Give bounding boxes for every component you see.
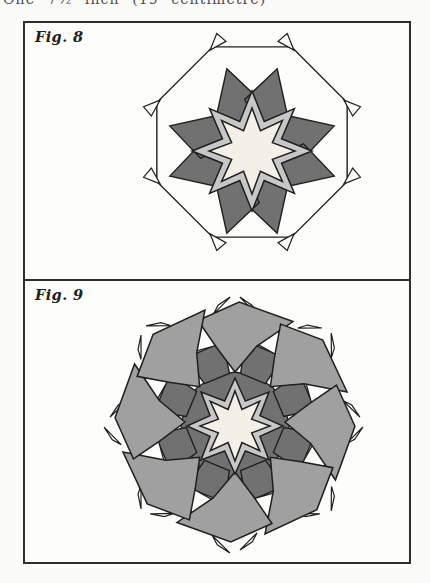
figure-9-label: Fig. 9 xyxy=(35,286,84,303)
figure-9-panel: Fig. 9 xyxy=(23,279,411,564)
top-caption-text: One 7½ inch (19 centimetre) xyxy=(3,0,266,8)
book-page: One 7½ inch (19 centimetre) Fig. 8 Fig. … xyxy=(0,0,430,583)
figure-8-label: Fig. 8 xyxy=(35,28,84,45)
fig9-pinwheel-wing xyxy=(270,324,347,392)
fig9-center-star xyxy=(200,391,270,461)
fig8-center-star xyxy=(209,108,295,194)
fig9-edge-flap xyxy=(150,513,174,516)
fig9-edge-flap xyxy=(331,333,334,357)
fig9-edge-flap xyxy=(104,427,121,444)
fig9-edge-flap xyxy=(146,323,170,326)
figure-9-drawing xyxy=(100,287,370,557)
figure-8-drawing xyxy=(132,22,372,262)
fig9-edge-flap xyxy=(331,486,334,510)
fig9-pinwheel-wing xyxy=(265,457,333,534)
fig9-pinwheel-wing xyxy=(137,310,205,387)
fig9-edge-flap xyxy=(138,335,141,359)
figure-8-panel: Fig. 8 xyxy=(23,21,411,281)
fig9-edge-flap xyxy=(298,325,322,328)
fig9-pinwheel-wing xyxy=(123,452,200,520)
